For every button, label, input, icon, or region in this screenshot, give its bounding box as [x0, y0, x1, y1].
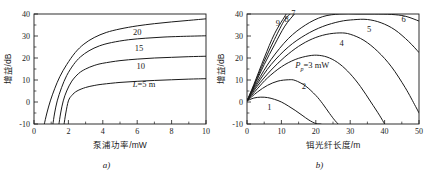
y-tick-label: 20 — [22, 54, 30, 63]
y-tick-label: 0 — [26, 98, 30, 107]
curve-6 — [247, 14, 419, 101]
figure-sheet: 0246810-10010203040泵浦功率/mW增益/dB201510L=5… — [0, 0, 426, 185]
y-tick-label: 0 — [239, 98, 243, 107]
y-tick-label: -10 — [232, 120, 243, 129]
x-tick-label: 6 — [135, 127, 139, 136]
x-tick-label: 40 — [381, 127, 389, 136]
curve-label-1: 1 — [267, 102, 271, 112]
curve-2 — [247, 80, 338, 124]
y-tick-label: 40 — [22, 10, 30, 19]
panel-b-caption: b) — [213, 160, 426, 170]
curve-label-pp: Pp=3 mW — [294, 60, 329, 72]
curve-label-20: 20 — [133, 27, 142, 37]
curve-label-15: 15 — [135, 43, 144, 53]
curve-label-l: L=5 m — [132, 79, 156, 89]
x-tick-label: 2 — [66, 127, 70, 136]
curves-group — [247, 14, 419, 124]
chart-panel-b: 01020304050-10010203040铒光纤长度/m增益/dB12Pp=… — [213, 0, 426, 185]
curve-label-7: 7 — [291, 8, 295, 18]
curve-label-4: 4 — [339, 38, 344, 48]
curve-15 — [53, 36, 206, 124]
curve-label-10: 10 — [136, 61, 145, 71]
x-tick-label: 50 — [415, 127, 423, 136]
curve-1 — [247, 97, 321, 124]
y-tick-label: 40 — [235, 10, 243, 19]
chart-a-canvas: 0246810-10010203040泵浦功率/mW增益/dB201510L=5… — [0, 0, 213, 158]
x-tick-label: 10 — [202, 127, 210, 136]
y-axis-title: 增益/dB — [3, 53, 13, 84]
y-tick-label: -10 — [19, 120, 30, 129]
x-tick-label: 20 — [312, 127, 320, 136]
chart-panel-a: 0246810-10010203040泵浦功率/mW增益/dB201510L=5… — [0, 0, 213, 185]
curve-label-5: 5 — [367, 24, 371, 34]
y-tick-label: 30 — [235, 32, 243, 41]
x-tick-label: 30 — [346, 127, 354, 136]
x-axis-title: 泵浦功率/mW — [93, 140, 146, 150]
curve-label-8: 8 — [284, 14, 288, 24]
y-axis-title: 增益/dB — [216, 53, 226, 84]
chart-b-canvas: 01020304050-10010203040铒光纤长度/m增益/dB12Pp=… — [213, 0, 426, 158]
y-tick-label: 20 — [235, 54, 243, 63]
curve-label-2: 2 — [302, 81, 306, 91]
y-tick-label: 10 — [22, 76, 30, 85]
x-tick-label: 4 — [101, 127, 105, 136]
plot-frame — [34, 14, 206, 124]
x-tick-label: 0 — [245, 127, 249, 136]
curve-label-9: 9 — [276, 18, 280, 28]
panel-a-caption: a) — [0, 160, 213, 170]
y-tick-label: 30 — [22, 32, 30, 41]
x-axis-title: 铒光纤长度/m — [306, 140, 360, 150]
curves-group — [44, 19, 206, 124]
curve-10 — [59, 56, 206, 124]
x-tick-label: 8 — [170, 127, 174, 136]
curve-label-6: 6 — [401, 14, 405, 24]
x-tick-label: 0 — [32, 127, 36, 136]
x-tick-label: 10 — [277, 127, 285, 136]
y-tick-label: 10 — [235, 76, 243, 85]
